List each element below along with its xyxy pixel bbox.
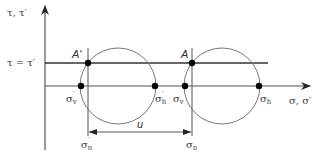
sigma-n-prime-label: σn′: [81, 136, 93, 152]
dimension-u-label: u: [137, 118, 143, 130]
sigma-axis-label: σ, σ′: [289, 95, 312, 106]
sigma-v-prime-dot: [78, 83, 84, 89]
sigma-v-prime-label: σv′: [66, 90, 77, 106]
sigma-h-prime-label: σh′: [155, 90, 167, 106]
sigma-v-dot: [182, 83, 188, 89]
point-a-prime-dot: [85, 60, 91, 66]
tau-axis-label: τ, τ′: [7, 7, 27, 18]
sigma-h-dot: [256, 83, 262, 89]
sigma-h-label: σh: [260, 93, 272, 106]
mohr-circle-diagram: τ, τ′ σ, σ′ τ = τ′ A′ A σv′ σh′ σv σh σn…: [0, 0, 324, 161]
point-a-prime-label: A′: [71, 48, 82, 60]
sigma-n-label: σn: [186, 139, 198, 152]
sigma-v-label: σv: [173, 93, 184, 106]
shear-line-label: τ = τ′: [7, 57, 36, 68]
sigma-h-prime-dot: [152, 83, 158, 89]
point-a-dot: [189, 60, 195, 66]
point-a-label: A: [180, 48, 188, 60]
